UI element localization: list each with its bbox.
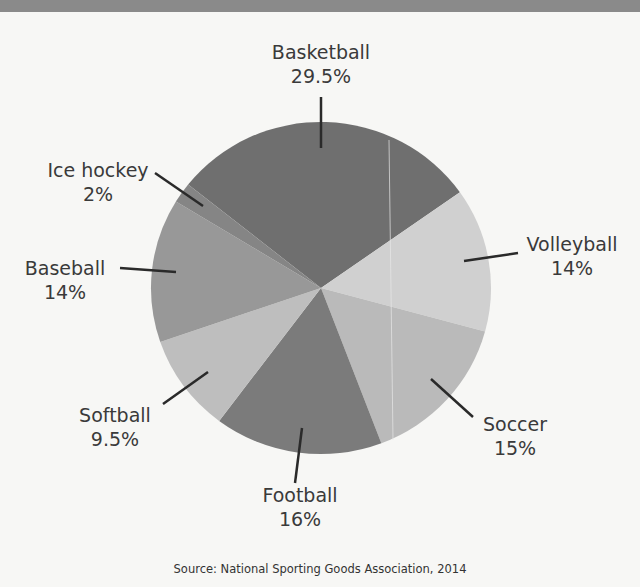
label-name: Football [240,483,360,507]
label-value: 14% [10,280,120,304]
label-value: 14% [512,256,632,280]
label-name: Softball [60,403,170,427]
label-name: Ice hockey [28,158,168,182]
label-football: Football 16% [240,483,360,531]
label-value: 2% [28,182,168,206]
label-value: 29.5% [241,64,401,88]
label-value: 16% [240,507,360,531]
label-basketball: Basketball 29.5% [241,40,401,88]
label-baseball: Baseball 14% [10,256,120,304]
label-name: Baseball [10,256,120,280]
source-note: Source: National Sporting Goods Associat… [0,562,640,576]
label-value: 9.5% [60,427,170,451]
pie-slices [151,122,491,454]
label-name: Basketball [241,40,401,64]
label-volleyball: Volleyball 14% [512,232,632,280]
label-soccer: Soccer 15% [465,412,565,460]
label-name: Soccer [465,412,565,436]
label-softball: Softball 9.5% [60,403,170,451]
label-name: Volleyball [512,232,632,256]
label-value: 15% [465,436,565,460]
label-icehockey: Ice hockey 2% [28,158,168,206]
